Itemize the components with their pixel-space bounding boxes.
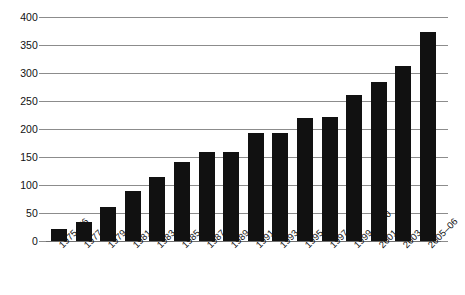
y-axis-label-350: 350 <box>4 40 38 51</box>
y-axis-tick-right-350 <box>441 45 448 46</box>
y-axis-tick-300 <box>39 73 46 74</box>
y-axis-label-150: 150 <box>4 152 38 163</box>
y-axis-tick-0 <box>39 241 46 242</box>
y-axis-tick-50 <box>39 213 46 214</box>
bar-chart-figure: 050100150200250300350400 1975–761977–781… <box>0 0 465 295</box>
y-axis-label-400: 400 <box>4 12 38 23</box>
y-axis-tick-right-300 <box>441 73 448 74</box>
y-axis-tick-100 <box>39 185 46 186</box>
y-axis-tick-right-400 <box>441 17 448 18</box>
gridline-300 <box>46 73 441 74</box>
y-axis-label-50: 50 <box>4 208 38 219</box>
plot-area <box>46 17 441 241</box>
y-axis-tick-right-150 <box>441 157 448 158</box>
y-axis-label-0: 0 <box>4 236 38 247</box>
gridline-400 <box>46 17 441 18</box>
y-axis-tick-200 <box>39 129 46 130</box>
y-axis-label-group: 050100150200250300350400 <box>0 0 38 295</box>
y-axis-label-100: 100 <box>4 180 38 191</box>
y-axis-tick-right-200 <box>441 129 448 130</box>
bar <box>420 32 436 241</box>
y-axis-tick-350 <box>39 45 46 46</box>
gridline-350 <box>46 45 441 46</box>
y-axis-tick-250 <box>39 101 46 102</box>
y-axis-label-250: 250 <box>4 96 38 107</box>
y-axis-label-300: 300 <box>4 68 38 79</box>
y-axis-tick-150 <box>39 157 46 158</box>
y-axis-tick-right-0 <box>441 241 448 242</box>
y-axis-tick-right-50 <box>441 213 448 214</box>
y-axis-tick-right-100 <box>441 185 448 186</box>
y-axis-tick-right-250 <box>441 101 448 102</box>
x-axis-label-group: 1975–761977–781979–801981–821983–841985–… <box>46 243 465 295</box>
bar <box>395 66 411 241</box>
y-axis-label-200: 200 <box>4 124 38 135</box>
y-axis-tick-400 <box>39 17 46 18</box>
